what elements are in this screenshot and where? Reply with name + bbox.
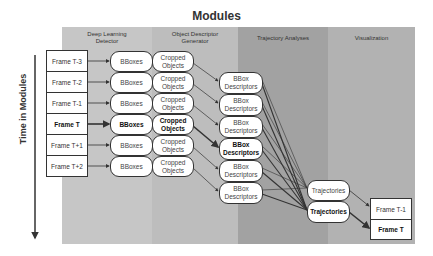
cropped-objects-node: CroppedObjects: [152, 72, 194, 93]
cropped-objects-node: CroppedObjects: [152, 93, 194, 114]
trajectories-node: Trajectories: [307, 180, 350, 201]
bbox-descriptors-node: BBoxDescriptors: [219, 160, 263, 182]
input-frame: Frame T-3: [46, 50, 88, 72]
node-label: Objects: [162, 167, 184, 175]
bbox-descriptors-node: BBoxDescriptors: [219, 72, 263, 94]
node-label: Objects: [162, 83, 184, 91]
bboxes-node: BBoxes: [110, 72, 153, 93]
node-label: Objects: [162, 104, 184, 112]
bboxes-node-current: BBoxes: [110, 114, 153, 135]
trajectories-node-current: Trajectories: [307, 201, 350, 223]
node-label: BBox: [233, 75, 249, 83]
node-label: Descriptors: [225, 127, 258, 135]
bbox-descriptors-node: BBoxDescriptors: [219, 94, 263, 116]
node-label: Cropped: [161, 138, 186, 146]
node-label: Objects: [162, 62, 184, 70]
input-frame: Frame T-2: [46, 71, 88, 93]
input-frame-current: Frame T: [46, 113, 88, 135]
node-label: Objects: [161, 125, 185, 133]
input-frame: Frame T+1: [46, 134, 88, 156]
input-frame: Frame T+2: [46, 155, 88, 177]
node-label: Cropped: [160, 117, 187, 125]
cropped-objects-node: CroppedObjects: [152, 51, 194, 72]
node-label: Descriptors: [225, 105, 258, 113]
bbox-descriptors-node: BBoxDescriptors: [219, 116, 263, 138]
node-label: Cropped: [161, 54, 186, 62]
cropped-objects-node: CroppedObjects: [152, 135, 194, 156]
cropped-objects-node-current: CroppedObjects: [152, 114, 194, 135]
input-frame: Frame T-1: [46, 92, 88, 114]
node-label: Descriptors: [225, 193, 258, 201]
output-frame-current: Frame T: [370, 219, 412, 240]
bbox-descriptors-node-current: BBoxDescriptors: [219, 138, 263, 160]
bboxes-node: BBoxes: [110, 135, 153, 156]
node-label: Descriptors: [225, 171, 258, 179]
node-label: BBox: [233, 119, 249, 127]
node-label: Cropped: [161, 75, 186, 83]
node-label: Cropped: [161, 96, 186, 104]
node-label: BBox: [233, 163, 249, 171]
node-label: BBox: [233, 141, 250, 149]
bboxes-node: BBoxes: [110, 156, 153, 177]
node-label: BBox: [233, 97, 249, 105]
cropped-objects-node: CroppedObjects: [152, 156, 194, 177]
node-label: BBox: [233, 185, 249, 193]
node-label: Objects: [162, 146, 184, 154]
time-axis-label: Time in Modules: [18, 64, 28, 154]
node-label: Cropped: [161, 159, 186, 167]
bboxes-node: BBoxes: [110, 51, 153, 72]
node-label: Descriptors: [225, 83, 258, 91]
bbox-descriptors-node: BBoxDescriptors: [219, 182, 263, 204]
bboxes-node: BBoxes: [110, 93, 153, 114]
node-label: Descriptors: [223, 149, 259, 157]
output-frame: Frame T-1: [370, 198, 412, 220]
